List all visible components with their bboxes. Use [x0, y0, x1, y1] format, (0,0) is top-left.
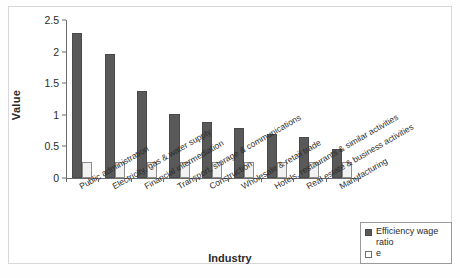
- legend-swatch-icon: [365, 251, 372, 258]
- x-axis-tick-mark: [228, 178, 229, 182]
- bar-efficiency-wage-ratio: [105, 54, 115, 178]
- legend-item-efficiency-wage-ratio: Efficiency wage ratio: [365, 226, 447, 247]
- legend-item-e: e: [365, 248, 447, 259]
- legend-item-label: Efficiency wage ratio: [376, 226, 447, 247]
- y-axis-title-text: Value: [10, 90, 22, 120]
- y-axis-tick-mark: [62, 20, 66, 21]
- chart-legend: Efficiency wage ratio e: [360, 222, 452, 264]
- x-axis-tick-mark: [98, 178, 99, 182]
- x-axis-tick-mark: [358, 178, 359, 182]
- x-axis-tick-mark: [66, 178, 67, 182]
- y-axis-tick-mark: [62, 114, 66, 115]
- y-axis-title: Value: [6, 60, 26, 150]
- chart-figure: Value 00.511.522.5 Public administration…: [0, 0, 460, 278]
- x-axis-tick-mark: [293, 178, 294, 182]
- plot-area: 00.511.522.5: [66, 20, 358, 178]
- y-axis-tick-mark: [62, 51, 66, 52]
- x-axis-tick-mark: [261, 178, 262, 182]
- x-axis-tick-mark: [163, 178, 164, 182]
- legend-item-label: e: [376, 248, 381, 259]
- x-axis-tick-mark: [326, 178, 327, 182]
- legend-swatch-icon: [365, 229, 372, 236]
- bar-efficiency-wage-ratio: [72, 33, 82, 178]
- y-axis-tick-mark: [62, 146, 66, 147]
- x-axis-tick-mark: [131, 178, 132, 182]
- y-axis-tick-mark: [62, 83, 66, 84]
- x-axis-tick-mark: [196, 178, 197, 182]
